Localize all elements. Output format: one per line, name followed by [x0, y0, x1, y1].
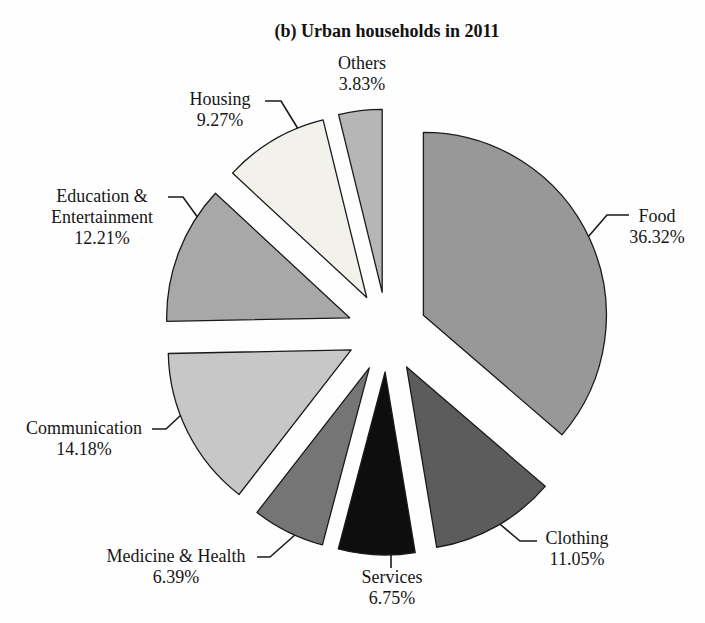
- pie-chart-figure: (b) Urban households in 2011 Food36.32%C…: [0, 0, 705, 623]
- pie-slice-food: [423, 132, 606, 435]
- leader-line-medicine-health: [257, 534, 296, 557]
- leader-line-communication: [152, 415, 181, 429]
- pie-chart: [0, 0, 705, 623]
- leader-line-food: [588, 215, 629, 237]
- leader-line-housing: [265, 101, 300, 132]
